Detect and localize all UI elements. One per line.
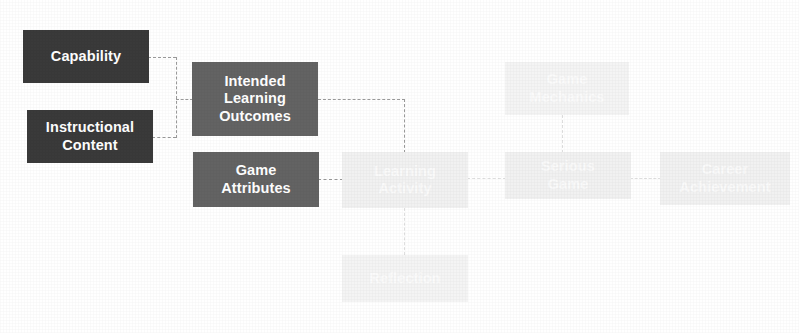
node-intended-learning-outcomes[interactable]: Intended Learning Outcomes bbox=[192, 62, 318, 136]
connector-attributes-to-activity bbox=[318, 179, 343, 180]
connector-mechanics-to-serious-game bbox=[562, 115, 563, 153]
node-serious-game[interactable]: Serious Game bbox=[505, 152, 631, 199]
node-career-achievement[interactable]: Career Achievement bbox=[660, 152, 790, 205]
connector-left-bus bbox=[176, 57, 177, 138]
connector-activity-to-serious-game bbox=[467, 178, 506, 179]
connector-ilo-to-activity-vertical bbox=[404, 99, 405, 153]
node-game-mechanics[interactable]: Game Mechanics bbox=[505, 62, 629, 115]
node-game-attributes[interactable]: Game Attributes bbox=[193, 152, 319, 207]
connector-capability-to-bus bbox=[148, 57, 176, 58]
node-learning-activity[interactable]: Learning Activity bbox=[342, 152, 468, 208]
connector-bus-to-ilo bbox=[176, 99, 193, 100]
node-capability[interactable]: Capability bbox=[23, 30, 149, 83]
diagram-canvas: Capability Instructional Content Intende… bbox=[0, 0, 799, 333]
connector-activity-to-reflection bbox=[404, 208, 405, 255]
connector-instructional-to-bus bbox=[152, 137, 176, 138]
connector-ilo-to-activity-horizontal bbox=[318, 99, 405, 100]
node-reflection[interactable]: Reflection bbox=[342, 255, 468, 302]
connector-serious-game-to-career bbox=[630, 178, 661, 179]
node-instructional-content[interactable]: Instructional Content bbox=[27, 110, 153, 163]
